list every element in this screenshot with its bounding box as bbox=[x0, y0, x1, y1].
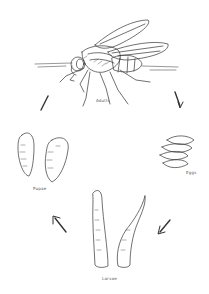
arrow-eggs-to-larvae bbox=[160, 220, 170, 232]
diagram-drawing bbox=[0, 0, 209, 294]
arrow-larvae-to-pupae bbox=[55, 218, 66, 232]
life-cycle-diagram: Adults Eggs Larvae Pupae bbox=[0, 0, 209, 294]
label-eggs: Eggs bbox=[186, 170, 197, 175]
label-pupae: Pupae bbox=[33, 186, 46, 191]
arrow-adult-to-eggs bbox=[175, 92, 180, 106]
eggs-illustration bbox=[160, 136, 194, 168]
cycle-arrows bbox=[41, 92, 183, 234]
label-adults: Adults bbox=[96, 98, 110, 103]
pupae-illustration bbox=[18, 133, 68, 182]
larvae-illustration bbox=[93, 190, 145, 267]
label-larvae: Larvae bbox=[102, 276, 117, 281]
arrow-pupae-to-adult bbox=[41, 96, 48, 110]
adult-fly-illustration bbox=[35, 20, 178, 106]
